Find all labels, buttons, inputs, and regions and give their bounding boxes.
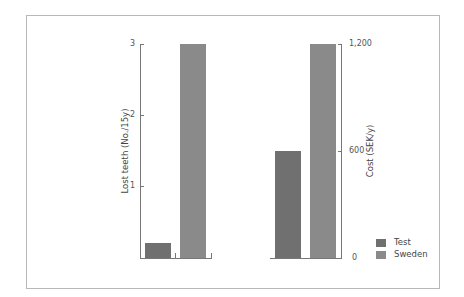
left-x-axis	[140, 258, 212, 259]
left-tick-1	[140, 186, 144, 187]
left-tick-label-3: 3	[130, 40, 135, 48]
legend-swatch-test	[376, 239, 386, 247]
left-y-axis	[140, 44, 141, 258]
left-bar-test	[145, 243, 171, 258]
left-x-tick-1	[175, 253, 176, 258]
right-bar-sweden	[310, 44, 336, 258]
left-y-axis-label: Lost teeth (No./15y)	[120, 101, 130, 201]
legend-label-test: Test	[394, 238, 411, 247]
right-x-axis	[270, 258, 342, 259]
right-tick-1200	[338, 44, 342, 45]
left-tick-2	[140, 115, 144, 116]
left-bar-sweden	[180, 44, 206, 258]
legend-label-sweden: Sweden	[394, 250, 428, 259]
right-tick-600	[338, 151, 342, 152]
left-tick-3	[140, 44, 144, 45]
left-tick-label-1: 1	[130, 182, 135, 190]
right-y-axis-label: Cost (SEK/y)	[365, 101, 375, 201]
right-bar-test	[275, 151, 301, 258]
chart-frame	[26, 15, 440, 289]
right-tick-label-1200: 1,200	[349, 40, 372, 48]
left-x-tick-2	[211, 253, 212, 258]
right-tick-label-0: 0	[352, 254, 357, 262]
right-tick-label-600: 600	[349, 147, 364, 155]
legend-swatch-sweden	[376, 251, 386, 259]
left-tick-label-2: 2	[130, 111, 135, 119]
